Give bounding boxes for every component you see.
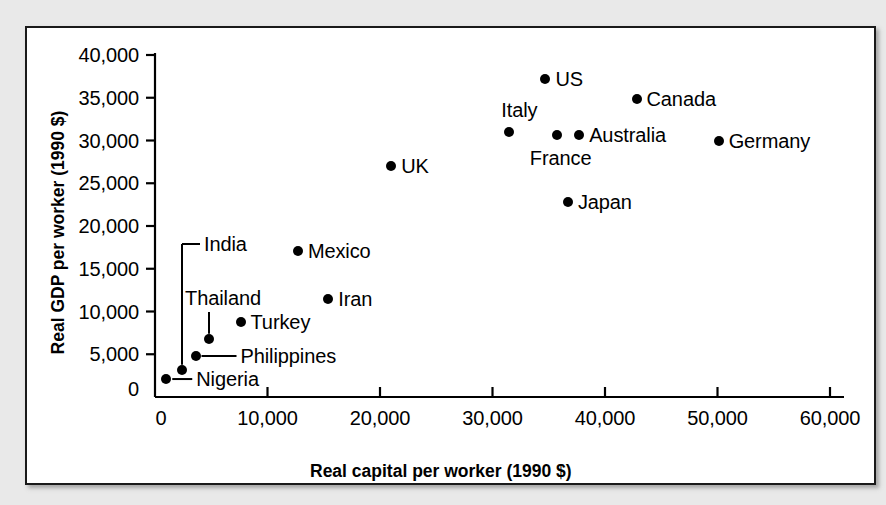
data-point-label: UK xyxy=(401,155,429,178)
data-point xyxy=(293,246,303,256)
data-point-label: Australia xyxy=(589,123,666,146)
y-tick-label: 5,000 xyxy=(89,343,139,366)
data-point-label: Germany xyxy=(729,130,811,153)
data-point xyxy=(191,351,201,361)
data-point xyxy=(632,94,642,104)
x-tick-label: 50,000 xyxy=(687,407,748,430)
data-point-label: Nigeria xyxy=(196,368,259,391)
figure-container: 05,00010,00015,00020,00025,00030,00035,0… xyxy=(0,0,886,505)
data-point xyxy=(204,334,214,344)
data-point-label: Italy xyxy=(501,98,537,121)
y-tick-label: 20,000 xyxy=(78,215,139,238)
x-tick-label: 20,000 xyxy=(350,407,411,430)
data-point-label: Thailand xyxy=(185,287,261,310)
y-tick-label: 10,000 xyxy=(78,300,139,323)
data-point xyxy=(323,294,333,304)
y-tick-label: 40,000 xyxy=(78,44,139,67)
scatter-plot: 05,00010,00015,00020,00025,00030,00035,0… xyxy=(0,0,886,505)
y-tick-label: 0 xyxy=(128,378,139,401)
y-tick-label: 30,000 xyxy=(78,129,139,152)
data-point-label: Iran xyxy=(338,287,372,310)
data-point-label: France xyxy=(530,146,592,169)
data-point-label: India xyxy=(204,233,247,256)
data-point-label: Canada xyxy=(647,87,716,110)
data-point-label: US xyxy=(555,67,583,90)
data-point-label: Japan xyxy=(578,191,632,214)
data-point-label: Mexico xyxy=(308,239,371,262)
y-tick-label: 25,000 xyxy=(78,172,139,195)
y-tick-label: 35,000 xyxy=(78,86,139,109)
x-tick-label: 30,000 xyxy=(462,407,523,430)
x-tick-label: 10,000 xyxy=(237,407,298,430)
x-tick-label: 40,000 xyxy=(575,407,636,430)
data-point-label: Philippines xyxy=(241,344,337,367)
x-tick-label: 0 xyxy=(155,407,166,430)
data-point-label: Turkey xyxy=(251,310,311,333)
data-point xyxy=(236,317,246,327)
x-tick-label: 60,000 xyxy=(800,407,861,430)
y-tick-label: 15,000 xyxy=(78,257,139,280)
data-point xyxy=(714,136,724,146)
data-point xyxy=(552,130,562,140)
data-point xyxy=(177,365,187,375)
axes-and-leaders xyxy=(0,0,886,505)
data-point xyxy=(563,197,573,207)
y-axis-title: Real GDP per worker (1990 $) xyxy=(48,103,69,363)
data-point xyxy=(574,130,584,140)
x-axis-title: Real capital per worker (1990 $) xyxy=(310,461,572,482)
